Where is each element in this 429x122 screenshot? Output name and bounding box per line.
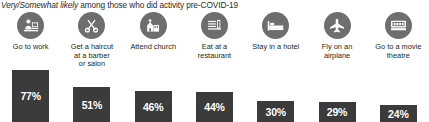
- label-line: Go to work: [2, 43, 60, 52]
- category-column-get-a-haircut: Get a haircut at a barber or salon 51%: [61, 12, 122, 122]
- headline-emphasis: Very/Somewhat likely: [1, 0, 78, 10]
- category-label-stay-in-a-hotel: Stay in a hotel: [247, 43, 305, 52]
- label-line: or salon: [63, 60, 121, 69]
- bar-go-to-a-movie-theatre: 24%: [380, 105, 417, 122]
- label-line: Stay in a hotel: [247, 43, 305, 52]
- bar-fly-on-an-airplane: 29%: [319, 102, 356, 122]
- bar-value-stay-in-a-hotel: 30%: [266, 106, 286, 118]
- category-label-get-a-haircut: Get a haircut at a barber or salon: [63, 43, 121, 69]
- category-column-stay-in-a-hotel: Stay in a hotel 30%: [245, 12, 306, 122]
- category-columns: Go to work 77% Get: [0, 12, 429, 122]
- category-label-go-to-a-movie-theatre: Go to a movie theatre: [369, 43, 427, 60]
- restaurant-food-icon: [201, 12, 228, 39]
- bar-eat-at-a-restaurant: 44%: [196, 92, 233, 122]
- activity-likelihood-chart: Very/Somewhat likely among those who did…: [0, 0, 429, 122]
- bar-area-stay-in-a-hotel: 30%: [245, 70, 306, 122]
- label-line: restaurant: [185, 52, 243, 61]
- bar-get-a-haircut: 51%: [73, 87, 110, 122]
- bar-value-attend-church: 46%: [143, 101, 163, 113]
- bar-area-eat-at-a-restaurant: 44%: [184, 70, 245, 122]
- category-label-eat-at-a-restaurant: Eat at a restaurant: [185, 43, 243, 60]
- bar-go-to-work: 77%: [12, 70, 49, 122]
- bar-attend-church: 46%: [135, 91, 172, 122]
- category-column-eat-at-a-restaurant: Eat at a restaurant 44%: [184, 12, 245, 122]
- category-column-go-to-a-movie-theatre: Go to a movie theatre 24%: [368, 12, 429, 122]
- bar-value-get-a-haircut: 51%: [82, 99, 102, 111]
- scissors-icon: [78, 12, 105, 39]
- category-column-fly-on-an-airplane: Fly on an airplane 29%: [306, 12, 367, 122]
- category-label-go-to-work: Go to work: [2, 43, 60, 52]
- category-column-attend-church: Attend church 46%: [123, 12, 184, 122]
- worker-at-desk-icon: [17, 12, 44, 39]
- category-label-attend-church: Attend church: [124, 43, 182, 52]
- bar-area-go-to-work: 77%: [0, 70, 61, 122]
- church-icon: [140, 12, 167, 39]
- label-line: Attend church: [124, 43, 182, 52]
- airplane-icon: [324, 12, 351, 39]
- bar-value-eat-at-a-restaurant: 44%: [204, 101, 224, 113]
- category-column-go-to-work: Go to work 77%: [0, 12, 61, 122]
- bar-area-get-a-haircut: 51%: [61, 70, 122, 122]
- bar-value-fly-on-an-airplane: 29%: [327, 106, 347, 118]
- bar-area-attend-church: 46%: [123, 70, 184, 122]
- label-line: airplane: [308, 52, 366, 61]
- headline-rest: among those who did activity pre-COVID-1…: [78, 0, 238, 10]
- bar-area-fly-on-an-airplane: 29%: [306, 70, 367, 122]
- bar-value-go-to-a-movie-theatre: 24%: [388, 108, 408, 120]
- chart-headline: Very/Somewhat likely among those who did…: [1, 0, 238, 10]
- bar-stay-in-a-hotel: 30%: [257, 101, 294, 122]
- bar-area-go-to-a-movie-theatre: 24%: [368, 70, 429, 122]
- label-line: theatre: [369, 52, 427, 61]
- bar-value-go-to-work: 77%: [20, 90, 40, 102]
- category-label-fly-on-an-airplane: Fly on an airplane: [308, 43, 366, 60]
- movie-screen-icon: [385, 12, 412, 39]
- hotel-bed-icon: [262, 12, 289, 39]
